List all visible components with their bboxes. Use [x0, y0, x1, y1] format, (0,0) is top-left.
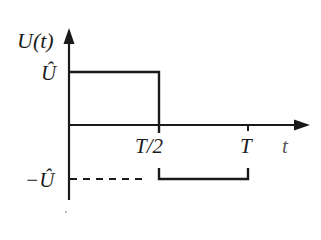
tick-period-label: T [240, 136, 252, 157]
level-low-label: −Û [25, 170, 54, 191]
x-axis-arrow-icon [294, 120, 310, 131]
level-high-label: Û [41, 63, 56, 84]
y-axis-arrow-icon [64, 28, 75, 44]
y-axis-label: U(t) [17, 30, 54, 52]
tick-half-period-label: T/2 [135, 136, 163, 157]
level-high-text: Û [41, 61, 56, 85]
x-axis-label: t [282, 136, 288, 157]
stray-dot [65, 211, 67, 213]
negative-pulse [159, 168, 248, 179]
positive-pulse [69, 72, 159, 133]
